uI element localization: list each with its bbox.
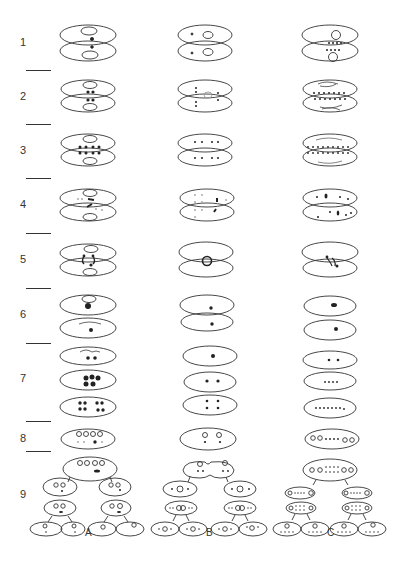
row-8-cells	[61, 428, 359, 450]
row-3-cells	[61, 134, 357, 166]
cell-drawings	[0, 0, 400, 568]
row-9-cells	[30, 457, 386, 536]
row-6-cells	[60, 295, 356, 340]
row-1-cells	[60, 25, 358, 62]
row-7-cells	[60, 346, 357, 418]
row-5-cells	[60, 242, 358, 277]
row-4-cells	[60, 189, 357, 221]
row-2-cells	[61, 80, 357, 112]
